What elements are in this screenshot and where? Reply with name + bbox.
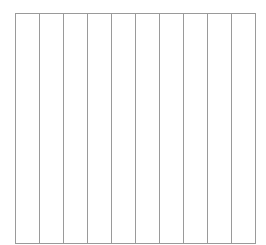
- vertical-gridline: [111, 13, 112, 244]
- vertical-gridline: [207, 13, 208, 244]
- vertical-gridline: [183, 13, 184, 244]
- vertical-gridline: [135, 13, 136, 244]
- vertical-gridline: [63, 13, 64, 244]
- vertical-gridline: [15, 13, 16, 244]
- vertical-gridline: [255, 13, 256, 244]
- vertical-gridline: [231, 13, 232, 244]
- vertical-gridline: [159, 13, 160, 244]
- vertical-gridline: [39, 13, 40, 244]
- vertical-gridline: [87, 13, 88, 244]
- chart-plot-area: [15, 13, 255, 243]
